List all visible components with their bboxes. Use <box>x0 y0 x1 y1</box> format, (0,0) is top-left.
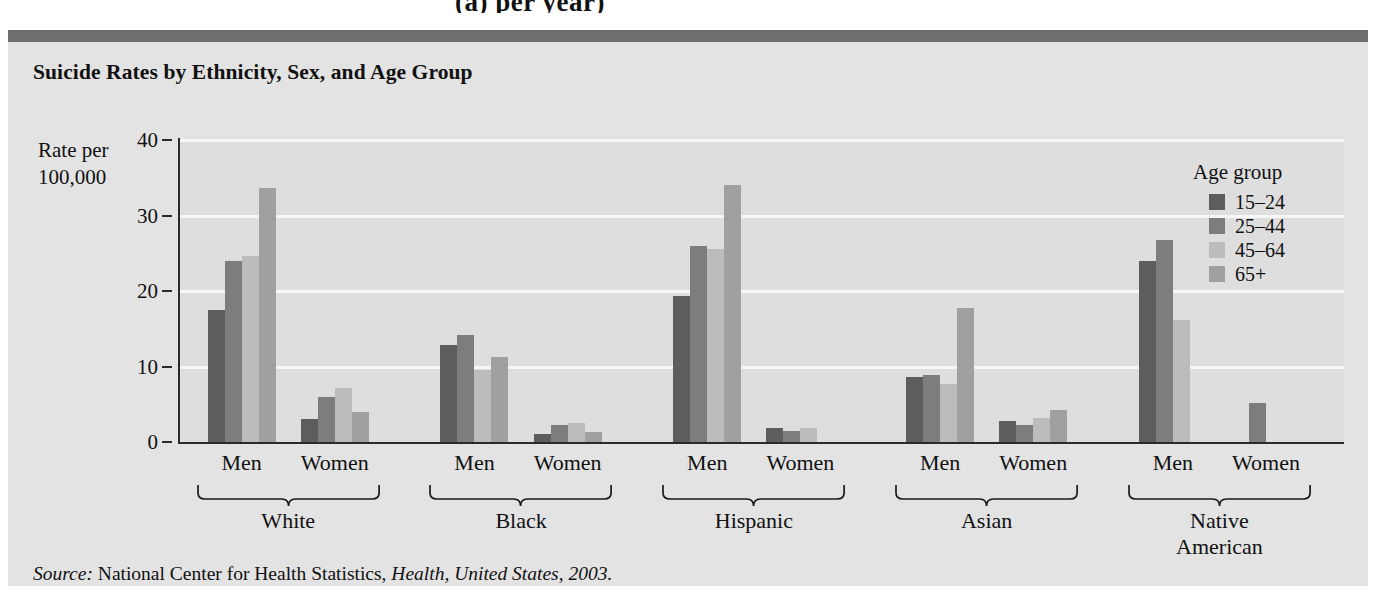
bar <box>923 375 940 442</box>
bar <box>783 431 800 442</box>
ethnicity-label-line: Native <box>1176 508 1263 534</box>
ethnicity-brace <box>1127 485 1312 507</box>
bar <box>957 308 974 442</box>
bar <box>1050 410 1067 442</box>
legend-swatch-icon <box>1209 242 1225 258</box>
legend-entry-label: 65+ <box>1235 263 1266 286</box>
legend-swatch-icon <box>1209 266 1225 282</box>
bar <box>457 335 474 442</box>
y-tick-mark <box>162 215 172 217</box>
x-axis-sex-label: Women <box>534 450 602 476</box>
bar <box>208 310 225 442</box>
legend-entry-label: 45–64 <box>1235 239 1285 262</box>
bar <box>259 188 276 442</box>
bar <box>766 428 783 442</box>
figure-screenshot: (a) per year) Suicide Rates by Ethnicity… <box>0 0 1376 599</box>
ethnicity-brace <box>428 485 613 507</box>
figure-body: Suicide Rates by Ethnicity, Sex, and Age… <box>8 42 1368 586</box>
bar <box>318 397 335 442</box>
y-tick-mark <box>162 441 172 443</box>
legend-entry-label: 25–44 <box>1235 215 1285 238</box>
legend: Age group 15–2425–4445–6465+ <box>1193 160 1358 286</box>
figure-title: Suicide Rates by Ethnicity, Sex, and Age… <box>33 60 473 85</box>
y-axis-title-line1: Rate per <box>38 137 109 164</box>
bar <box>335 388 352 442</box>
bar <box>225 261 242 442</box>
ethnicity-label-line: American <box>1176 534 1263 560</box>
bar <box>906 377 923 442</box>
legend-entry: 15–24 <box>1209 190 1358 214</box>
bar <box>940 384 957 442</box>
y-tick-label: 0 <box>148 430 159 455</box>
bar <box>690 246 707 442</box>
x-axis-ethnicity-label: NativeAmerican <box>1176 508 1263 560</box>
legend-entry-label: 15–24 <box>1235 191 1285 214</box>
bar <box>707 249 724 442</box>
x-axis-sex-label: Men <box>222 450 262 476</box>
legend-entry: 25–44 <box>1209 214 1358 238</box>
x-axis-sex-label: Men <box>920 450 960 476</box>
bars-layer <box>180 140 1344 442</box>
bar <box>440 345 457 442</box>
bar <box>1156 240 1173 442</box>
bar <box>551 425 568 442</box>
bar <box>301 419 318 442</box>
x-axis-sex-label: Women <box>1232 450 1300 476</box>
x-axis-line <box>178 442 1344 444</box>
x-axis-ethnicity-label: White <box>261 508 315 534</box>
source-prefix: Source: <box>33 563 93 584</box>
ethnicity-label-line: Black <box>495 508 546 534</box>
bar <box>724 185 741 442</box>
legend-entry: 45–64 <box>1209 238 1358 262</box>
y-tick-label: 30 <box>137 203 158 228</box>
y-tick-mark <box>162 366 172 368</box>
ethnicity-brace <box>196 485 381 507</box>
bar <box>1173 320 1190 442</box>
ethnicity-brace <box>894 485 1079 507</box>
y-tick-mark <box>162 290 172 292</box>
legend-title: Age group <box>1193 160 1358 185</box>
bar <box>1016 425 1033 442</box>
cropped-header-fragment: (a) per year) <box>455 0 875 13</box>
source-publication: Health, United States, 2003. <box>391 563 612 584</box>
ethnicity-brace <box>661 485 846 507</box>
source-agency: National Center for Health Statistics, <box>98 563 387 584</box>
x-axis-sex-label: Women <box>766 450 834 476</box>
ethnicity-label-line: White <box>261 508 315 534</box>
legend-entry: 65+ <box>1209 262 1358 286</box>
ethnicity-label-line: Hispanic <box>715 508 793 534</box>
y-tick-label: 40 <box>137 128 158 153</box>
bar <box>800 428 817 442</box>
bar <box>1033 418 1050 442</box>
y-tick-mark <box>162 139 172 141</box>
x-axis-ethnicity-label: Asian <box>961 508 1012 534</box>
x-axis-sex-label: Women <box>999 450 1067 476</box>
legend-swatch-icon <box>1209 194 1225 210</box>
x-axis-ethnicity-label: Hispanic <box>715 508 793 534</box>
y-axis-title: Rate per 100,000 <box>38 137 109 191</box>
y-tick-label: 20 <box>137 279 158 304</box>
figure-top-rule <box>8 30 1368 42</box>
bar <box>673 296 690 442</box>
y-tick-label: 10 <box>137 354 158 379</box>
bar <box>534 434 551 442</box>
x-axis-sex-label: Men <box>1153 450 1193 476</box>
bar <box>568 423 585 442</box>
bar <box>585 432 602 442</box>
bar <box>1139 261 1156 442</box>
bar <box>999 421 1016 442</box>
bar <box>242 256 259 442</box>
legend-entries: 15–2425–4445–6465+ <box>1193 190 1358 286</box>
y-axis-title-line2: 100,000 <box>38 164 109 191</box>
bar <box>491 357 508 442</box>
bar <box>352 412 369 442</box>
x-axis-sex-label: Men <box>454 450 494 476</box>
x-axis-sex-label: Women <box>301 450 369 476</box>
bar <box>474 370 491 442</box>
x-axis-sex-label: Men <box>687 450 727 476</box>
x-axis-ethnicity-label: Black <box>495 508 546 534</box>
ethnicity-label-line: Asian <box>961 508 1012 534</box>
figure-panel: Suicide Rates by Ethnicity, Sex, and Age… <box>8 30 1368 586</box>
source-note: Source: National Center for Health Stati… <box>33 563 612 585</box>
bar <box>1249 403 1266 442</box>
